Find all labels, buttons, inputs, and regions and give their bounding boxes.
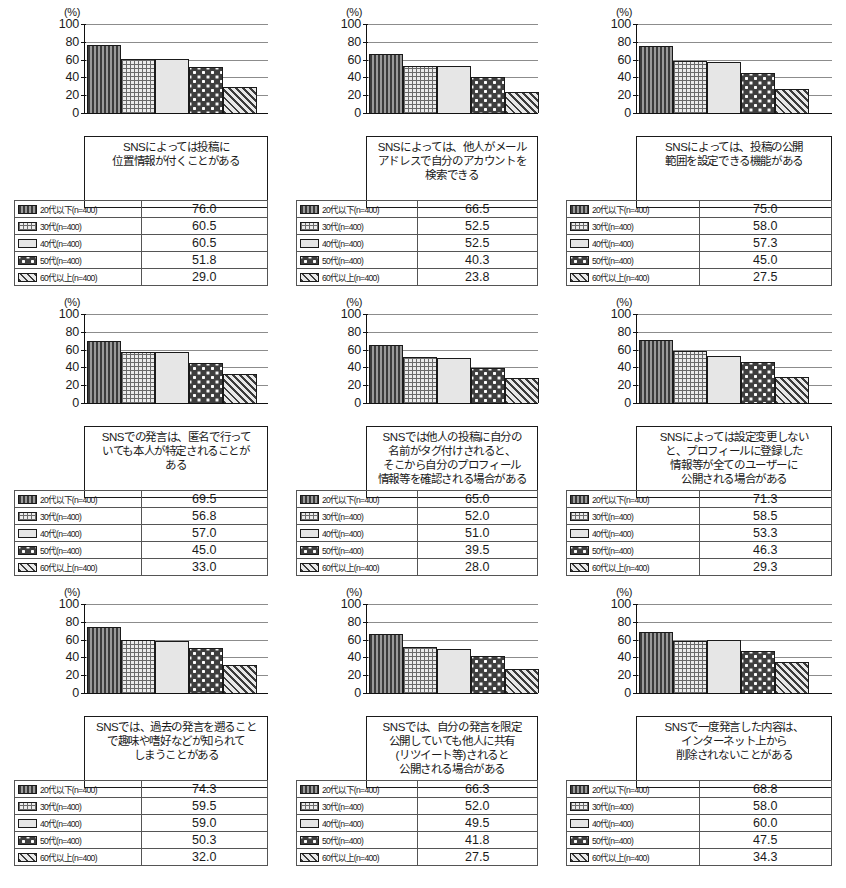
y-axis-tick-label: 40	[347, 651, 361, 664]
legend-entry: 30代(n=400)	[18, 510, 141, 523]
table-row: 30代(n=400)59.5	[15, 798, 268, 815]
axis-tick	[81, 314, 86, 315]
bar-group	[87, 314, 257, 403]
bar	[437, 358, 471, 403]
plot-area: 100806040200	[84, 314, 268, 404]
y-axis-tick-label: 0	[354, 687, 361, 700]
legend-label: 30代(n=400)	[592, 510, 633, 523]
plain-light-swatch	[18, 239, 37, 248]
bar	[189, 67, 223, 113]
bar	[707, 356, 741, 403]
bar-group	[87, 604, 257, 693]
chart-title-box: SNSでは、自分の発言を限定 公開していても他人に共有 (リツイート等)されると…	[366, 716, 538, 788]
y-axis-tick-label: 0	[72, 687, 79, 700]
axis-tick	[81, 24, 86, 25]
plain-light-swatch	[570, 529, 589, 538]
legend-entry: 20代以下(n=400)	[300, 783, 417, 796]
diagonal-hatch-swatch	[570, 853, 589, 862]
grid-hatch-swatch	[570, 802, 589, 811]
value-cell: 53.3	[699, 525, 832, 542]
grid-hatch-swatch	[18, 222, 37, 231]
value-cell: 51.8	[141, 252, 268, 269]
bar	[707, 62, 741, 113]
y-axis-tick-label: 80	[65, 326, 79, 339]
legend-cell: 20代以下(n=400)	[567, 201, 700, 218]
legend-cell: 30代(n=400)	[567, 798, 700, 815]
axis-tick	[633, 113, 638, 114]
legend-cell: 50代(n=400)	[567, 542, 700, 559]
table-row: 30代(n=400)52.0	[297, 508, 538, 525]
chart-panel: (%)100806040200SNSでの発言は、匿名で行って いても本人が特定さ…	[0, 290, 282, 580]
y-axis-tick-label: 20	[65, 669, 79, 682]
legend-entry: 30代(n=400)	[300, 510, 417, 523]
table-row: 20代以下(n=400)69.5	[15, 491, 268, 508]
chart-panel: (%)100806040200SNSによっては、投稿の公開 範囲を設定できる機能…	[552, 0, 846, 290]
value-cell: 27.5	[417, 849, 538, 866]
chart-panel-inner: (%)100806040200SNSでは、過去の発言を遡ること で趣味や嗜好など…	[0, 580, 282, 868]
legend-entry: 40代(n=400)	[18, 817, 141, 830]
legend-cell: 30代(n=400)	[297, 798, 418, 815]
axis-tick	[363, 640, 368, 641]
table-row: 50代(n=400)45.0	[567, 252, 832, 269]
legend-entry: 50代(n=400)	[570, 254, 699, 267]
table-row: 60代以上(n=400)33.0	[15, 559, 268, 576]
y-axis-tick-label: 60	[617, 53, 631, 66]
chart-title-box: SNSによっては投稿に 位置情報が付くことがある	[84, 136, 268, 208]
vertical-stripe-swatch	[570, 785, 589, 794]
axis-tick	[81, 77, 86, 78]
plot-area: 100806040200	[84, 604, 268, 694]
chart-panel-inner: (%)100806040200SNSによっては設定変更しない と、プロフィールに…	[552, 290, 846, 580]
y-axis-tick-label: 20	[347, 379, 361, 392]
bar	[639, 632, 673, 693]
y-axis-tick-label: 0	[72, 107, 79, 120]
table-row: 40代(n=400)60.0	[567, 815, 832, 832]
bar	[189, 648, 223, 693]
legend-entry: 20代以下(n=400)	[570, 493, 699, 506]
bar	[121, 352, 155, 403]
legend-label: 50代(n=400)	[592, 544, 633, 557]
axis-tick	[363, 24, 368, 25]
legend-label: 30代(n=400)	[322, 220, 363, 233]
legend-label: 40代(n=400)	[322, 527, 363, 540]
y-axis-tick-label: 100	[341, 308, 361, 321]
legend-label: 40代(n=400)	[40, 817, 81, 830]
axis-tick	[363, 332, 368, 333]
dotted-dark-swatch	[300, 546, 319, 555]
legend-cell: 60代以上(n=400)	[15, 849, 142, 866]
legend-label: 50代(n=400)	[322, 834, 363, 847]
axis-tick	[633, 622, 638, 623]
axis-tick	[363, 385, 368, 386]
chart-title: SNSでは他人の投稿に自分の 名前がタグ付けされると、 そこから自分のプロフィー…	[367, 430, 537, 486]
axis-tick	[363, 42, 368, 43]
y-axis-tick-label: 0	[624, 397, 631, 410]
value-cell: 45.0	[699, 252, 832, 269]
y-axis-tick-label: 40	[617, 651, 631, 664]
axis-tick	[633, 675, 638, 676]
axis-tick	[633, 350, 638, 351]
chart-title: SNSでは、過去の発言を遡ること で趣味や嗜好などが知られて しまうことがある	[85, 720, 267, 762]
legend-entry: 40代(n=400)	[300, 817, 417, 830]
y-axis-tick-label: 40	[617, 361, 631, 374]
chart-panel-inner: (%)100806040200SNSでは他人の投稿に自分の 名前がタグ付けされる…	[282, 290, 552, 580]
chart-title-box: SNSによっては、他人がメール アドレスで自分のアカウントを 検索できる	[366, 136, 538, 208]
legend-entry: 20代以下(n=400)	[18, 783, 141, 796]
legend-cell: 30代(n=400)	[15, 508, 142, 525]
bar	[403, 647, 437, 693]
value-cell: 52.5	[417, 218, 538, 235]
y-axis-tick-label: 20	[617, 379, 631, 392]
table-row: 60代以上(n=400)34.3	[567, 849, 832, 866]
bar	[87, 45, 121, 113]
legend-cell: 50代(n=400)	[567, 252, 700, 269]
legend-label: 20代以下(n=400)	[40, 783, 97, 796]
chart-panel-inner: (%)100806040200SNSでの発言は、匿名で行って いても本人が特定さ…	[0, 290, 282, 580]
legend-label: 30代(n=400)	[40, 220, 81, 233]
legend-label: 30代(n=400)	[592, 800, 633, 813]
legend-entry: 40代(n=400)	[570, 237, 699, 250]
legend-label: 60代以上(n=400)	[40, 851, 97, 864]
bar	[505, 92, 539, 113]
diagonal-hatch-swatch	[18, 273, 37, 282]
legend-cell: 20代以下(n=400)	[297, 201, 418, 218]
plain-light-swatch	[300, 239, 319, 248]
legend-entry: 40代(n=400)	[570, 527, 699, 540]
table-row: 20代以下(n=400)66.5	[297, 201, 538, 218]
